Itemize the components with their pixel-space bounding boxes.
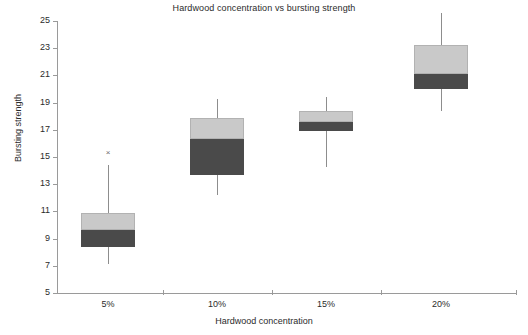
box-upper-quartile — [414, 45, 468, 74]
box-lower-quartile — [414, 74, 468, 89]
boxplot-figure: Hardwood concentration vs bursting stren… — [0, 0, 528, 335]
box-group-20pct[interactable] — [0, 0, 528, 335]
